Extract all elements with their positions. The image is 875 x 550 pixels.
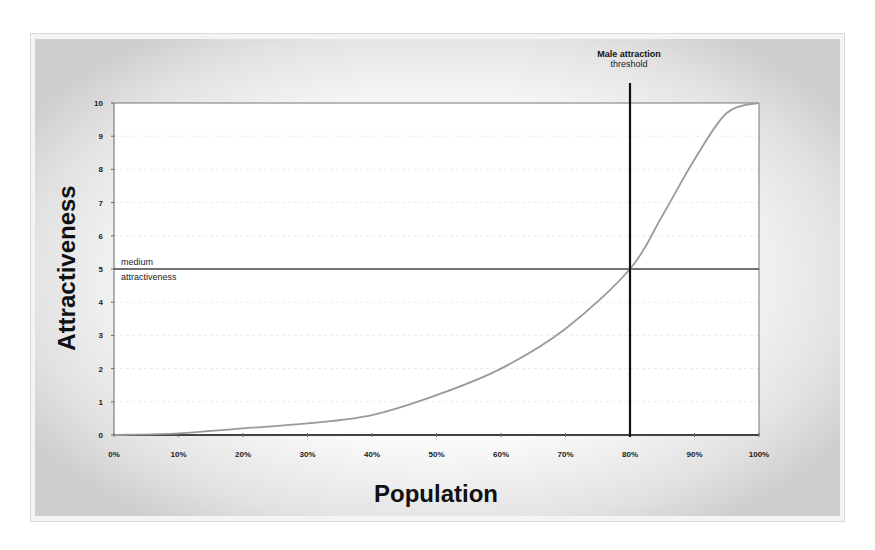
y-tick-label: 3 [99, 331, 104, 340]
threshold-label-line1: Male attraction [597, 49, 661, 59]
attractiveness-label: attractiveness [121, 272, 177, 282]
attractiveness-chart: 012345678910 0%10%20%30%40%50%60%70%80%9… [0, 0, 875, 550]
x-tick-label: 20% [235, 450, 251, 459]
x-tick-label: 100% [749, 450, 769, 459]
y-tick-label: 1 [99, 398, 104, 407]
y-tick-label: 4 [99, 298, 104, 307]
y-tick-label: 7 [99, 199, 104, 208]
medium-label: medium [121, 257, 153, 267]
y-tick-labels: 012345678910 [94, 99, 114, 440]
y-tick-label: 10 [94, 99, 103, 108]
x-tick-labels: 0%10%20%30%40%50%60%70%80%90%100% [108, 433, 769, 459]
x-tick-label: 30% [299, 450, 315, 459]
x-tick-label: 60% [493, 450, 509, 459]
x-tick-label: 90% [686, 450, 702, 459]
x-tick-label: 70% [557, 450, 573, 459]
x-tick-label: 10% [170, 450, 186, 459]
y-tick-label: 6 [99, 232, 104, 241]
y-tick-label: 0 [99, 431, 104, 440]
y-tick-label: 2 [99, 365, 104, 374]
x-axis-title: Population [374, 480, 498, 507]
threshold-label-line2: threshold [610, 59, 647, 69]
x-tick-label: 80% [622, 450, 638, 459]
x-tick-label: 40% [364, 450, 380, 459]
x-tick-label: 0% [108, 450, 120, 459]
y-tick-label: 9 [99, 132, 104, 141]
y-tick-label: 5 [99, 265, 104, 274]
x-tick-label: 50% [428, 450, 444, 459]
y-tick-label: 8 [99, 165, 104, 174]
y-axis-title: Attractiveness [53, 185, 80, 350]
